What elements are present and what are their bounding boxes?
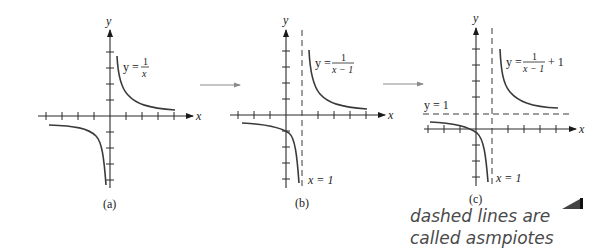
- equation-denominator: x: [141, 68, 147, 79]
- equation-b: y = 1 x − 1: [315, 52, 354, 75]
- equation-lhs: y =: [315, 56, 331, 70]
- handwritten-note: dashed lines are called asmpiotes: [410, 206, 554, 248]
- equation-c: y = 1 x − 1 + 1: [506, 51, 564, 74]
- horizontal-asymptote-label: y = 1: [424, 98, 449, 112]
- vertical-asymptote-label: x = 1: [495, 171, 521, 185]
- equation-numerator: 1: [341, 52, 346, 63]
- y-axis-label: y: [282, 13, 289, 27]
- note-line-2: called asmpiotes: [410, 228, 554, 248]
- equation-lhs: y =: [506, 55, 522, 69]
- x-axis-label: x: [195, 109, 202, 123]
- curve-lower-left: [49, 125, 106, 185]
- y-axis-label: y: [472, 11, 479, 25]
- panel-b: y x y = 1 x − 1 x = 1 (b): [230, 13, 394, 210]
- panel-a: y x y = 1 x (a): [38, 14, 202, 211]
- equation-numerator: 1: [532, 51, 537, 62]
- transformation-figure: y x y = 1 x (a): [0, 0, 613, 252]
- equation-a: y = 1 x: [123, 56, 149, 79]
- note-line-1: dashed lines are: [410, 206, 550, 226]
- curve-lower-left: [430, 122, 488, 182]
- x-axis-label: x: [578, 122, 585, 136]
- y-axis-label: y: [105, 14, 112, 28]
- caption-b: (b): [295, 196, 309, 210]
- equation-lhs: y =: [123, 60, 139, 74]
- curve-lower-left: [242, 123, 299, 183]
- equation-suffix: + 1: [548, 55, 564, 69]
- caption-a: (a): [103, 197, 116, 211]
- panel-c: y x y = 1 x − 1 + 1 y = 1 x = 1 (c): [423, 11, 585, 206]
- caption-c: (c): [469, 192, 482, 206]
- x-axis-label: x: [387, 108, 394, 122]
- equation-denominator: x − 1: [331, 64, 353, 75]
- signal-triangle-icon: [562, 198, 583, 209]
- equation-numerator: 1: [143, 56, 148, 67]
- equation-denominator: x − 1: [522, 63, 544, 74]
- vertical-asymptote-label: x = 1: [307, 173, 333, 187]
